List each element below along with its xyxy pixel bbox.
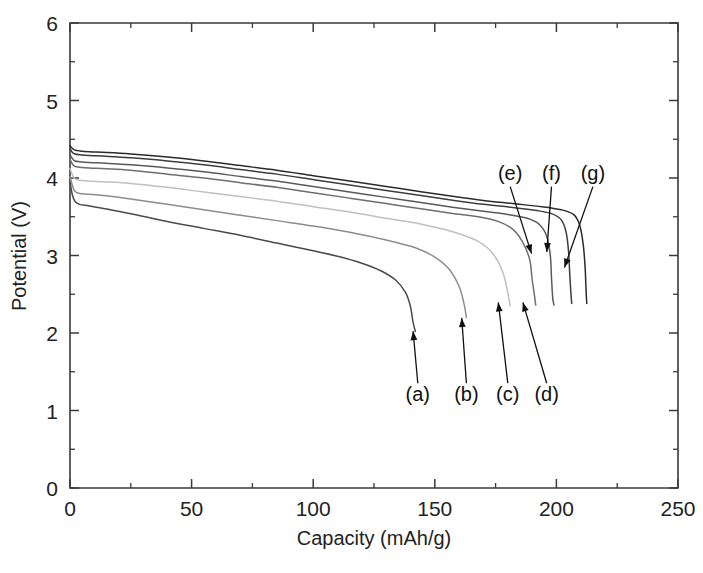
curve-label-a: (a)	[406, 383, 430, 405]
y-axis-title: Potential (V)	[8, 201, 30, 311]
discharge-curves-chart: 050100150200250 0123456 (a)(b)(c)(d)(e)(…	[0, 0, 703, 573]
curve-label-e: (e)	[498, 162, 522, 184]
x-tick-label: 150	[417, 497, 452, 520]
chart-background	[0, 0, 703, 573]
x-tick-label: 250	[660, 497, 695, 520]
x-axis-title: Capacity (mAh/g)	[297, 527, 452, 549]
curve-label-d: (d)	[534, 383, 558, 405]
y-tick-label: 6	[46, 12, 58, 35]
curve-label-c: (c)	[496, 383, 519, 405]
curve-label-b: (b)	[454, 383, 478, 405]
curve-label-g: (g)	[581, 162, 605, 184]
y-tick-label: 0	[46, 477, 58, 500]
x-tick-label: 50	[180, 497, 203, 520]
x-tick-label: 200	[539, 497, 574, 520]
x-tick-label: 0	[64, 497, 76, 520]
y-tick-label: 1	[46, 400, 58, 423]
chart-figure: 050100150200250 0123456 (a)(b)(c)(d)(e)(…	[0, 0, 703, 573]
y-tick-label: 5	[46, 90, 58, 113]
y-tick-label: 4	[46, 167, 58, 190]
x-tick-label: 100	[296, 497, 331, 520]
y-tick-label: 3	[46, 245, 58, 268]
y-tick-label: 2	[46, 322, 58, 345]
curve-label-f: (f)	[542, 162, 561, 184]
